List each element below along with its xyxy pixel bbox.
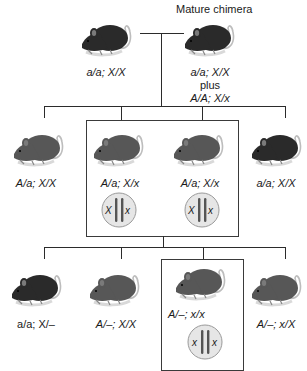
chimera-plus: plus <box>180 79 240 92</box>
f2-genotype-4: A/–; x/X <box>246 318 306 331</box>
f1-cell-3-left-x: X <box>188 204 195 217</box>
chimera-mouse-icon <box>181 18 237 62</box>
f1-drop-3 <box>202 106 203 120</box>
f2-mouse-2-icon <box>86 268 142 312</box>
f2-drop-1 <box>44 247 45 259</box>
f1-mouse-2-icon <box>90 128 146 172</box>
f1-mouse-3-icon <box>170 128 226 172</box>
f2-genotype-3: A/–; x/x <box>168 308 224 321</box>
f2-drop-2 <box>121 247 122 259</box>
parent-descent-line <box>161 33 162 106</box>
f2-cell-3-left-x: x <box>192 336 197 349</box>
f1-descent-line <box>163 236 164 247</box>
parent-mating-line <box>140 33 184 34</box>
f1-genotype-3: A/a; X/x <box>170 177 230 190</box>
f2-mouse-3-icon <box>172 262 228 306</box>
mature-chimera-title: Mature chimera <box>176 3 252 15</box>
f1-genotype-2: A/a; X/x <box>90 177 150 190</box>
f2-drop-4 <box>285 247 286 259</box>
chimera-genotype-2: A/A; X/x <box>180 92 240 105</box>
f2-cell-3-right-x: x <box>212 336 217 349</box>
f1-sibling-line <box>44 106 286 107</box>
f1-genotype-1: A/a; X/X <box>6 177 66 190</box>
chimera-genotype-1: a/a; X/X <box>180 66 240 79</box>
f1-cell-2-left-x: X <box>105 204 112 217</box>
f2-mouse-4-icon <box>248 268 304 312</box>
f1-cell-2-right-x: x <box>125 204 130 217</box>
f1-genotype-4: a/a; X/X <box>246 177 306 190</box>
f1-mouse-4-icon <box>248 128 304 172</box>
parent-mouse-black-icon <box>78 18 134 62</box>
f2-mouse-1-icon <box>8 268 64 312</box>
f1-cell-3-right-x: x <box>208 204 213 217</box>
f2-drop-3 <box>203 247 204 259</box>
f1-drop-4 <box>285 106 286 118</box>
parent-1-genotype: a/a; X/X <box>76 66 136 79</box>
f1-mouse-1-icon <box>10 128 66 172</box>
f1-drop-1 <box>44 106 45 118</box>
f2-sibling-line <box>44 247 286 248</box>
f1-drop-2 <box>121 106 122 120</box>
f2-genotype-2: A/–; X/X <box>86 318 146 331</box>
f2-genotype-1: a/a; X/– <box>6 318 66 331</box>
